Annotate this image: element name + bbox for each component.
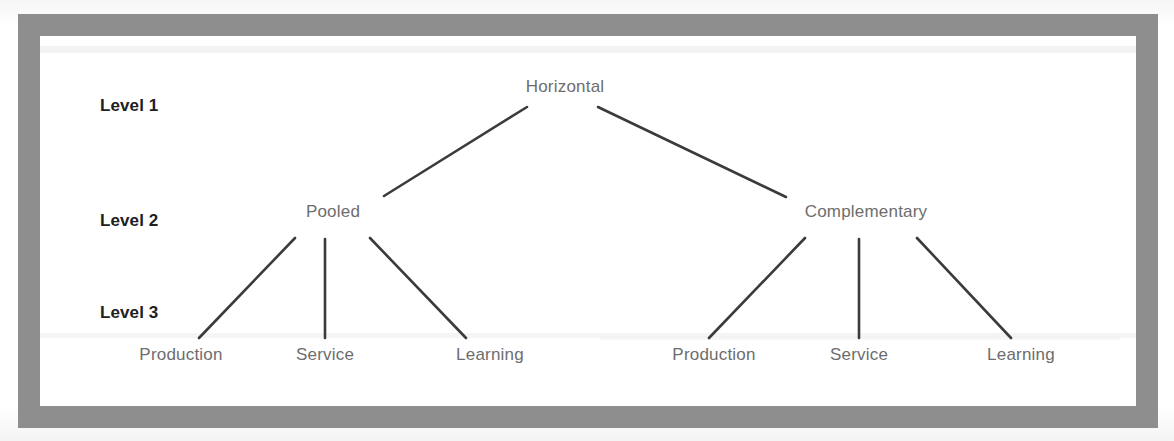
scan-artifact <box>40 46 1136 53</box>
scan-artifact <box>40 333 1136 338</box>
node-left-production: Production <box>139 345 222 365</box>
node-right-production: Production <box>672 345 755 365</box>
level-label-2: Level 2 <box>100 211 158 231</box>
diagram-root: Level 1 Level 2 Level 3 Horizontal Poole… <box>0 0 1174 441</box>
node-horizontal: Horizontal <box>526 77 605 97</box>
node-left-learning: Learning <box>456 345 524 365</box>
node-left-service: Service <box>296 345 354 365</box>
level-label-3: Level 3 <box>100 303 158 323</box>
node-complementary: Complementary <box>805 202 928 222</box>
node-right-service: Service <box>830 345 888 365</box>
scan-artifact <box>600 336 1120 340</box>
level-label-1: Level 1 <box>100 96 158 116</box>
node-right-learning: Learning <box>987 345 1055 365</box>
node-pooled: Pooled <box>306 202 360 222</box>
